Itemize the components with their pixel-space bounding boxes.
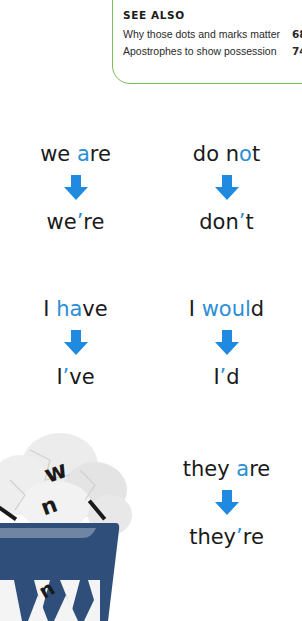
contraction-i-would: I would I’d bbox=[151, 296, 302, 390]
arrow-down-icon bbox=[214, 175, 240, 201]
see-also-label: Apostrophes to show possession bbox=[123, 43, 292, 60]
crumpled-paper-icon bbox=[0, 433, 132, 535]
contracted-form: I’ve bbox=[0, 364, 151, 390]
full-form: they are bbox=[151, 456, 302, 482]
wastebasket-illustration: w u n bbox=[0, 420, 140, 621]
full-form: we are bbox=[0, 141, 151, 167]
arrow-down-icon bbox=[214, 330, 240, 356]
contracted-form: we’re bbox=[0, 209, 151, 235]
see-also-page: 68 bbox=[292, 26, 302, 43]
see-also-link-possession[interactable]: Apostrophes to show possession 74 bbox=[123, 43, 302, 60]
contraction-they-are: they are they’re bbox=[151, 456, 302, 550]
see-also-box: SEE ALSO Why those dots and marks matter… bbox=[112, 0, 302, 84]
see-also-link-dots-marks[interactable]: Why those dots and marks matter 68 bbox=[123, 26, 302, 43]
full-form: I have bbox=[0, 296, 151, 322]
contracted-form: don’t bbox=[151, 209, 302, 235]
contraction-do-not: do not don’t bbox=[151, 141, 302, 235]
see-also-label: Why those dots and marks matter bbox=[123, 26, 292, 43]
see-also-page: 74 bbox=[292, 43, 302, 60]
contracted-form: I’d bbox=[151, 364, 302, 390]
contraction-i-have: I have I’ve bbox=[0, 296, 151, 390]
see-also-title: SEE ALSO bbox=[123, 9, 302, 21]
basket-body: n bbox=[0, 523, 119, 621]
full-form: do not bbox=[151, 141, 302, 167]
full-form: I would bbox=[151, 296, 302, 322]
arrow-down-icon bbox=[63, 175, 89, 201]
arrow-down-icon bbox=[214, 490, 240, 516]
arrow-down-icon bbox=[63, 330, 89, 356]
contracted-form: they’re bbox=[151, 524, 302, 550]
contraction-we-are: we are we’re bbox=[0, 141, 151, 235]
